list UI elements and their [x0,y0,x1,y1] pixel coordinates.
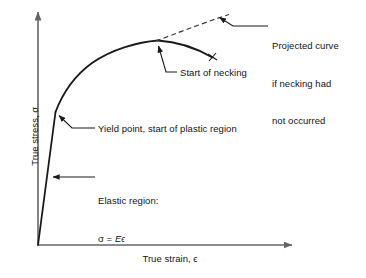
annotation-projected-line-1: Projected curve [272,40,339,53]
post-necking-curve [158,41,213,58]
annotation-projected-line-3: not occurred [272,115,339,128]
leader-necking [159,46,178,72]
annotation-elastic-region: Elastic region: σ = Eϵ [98,170,158,258]
equation-sigma-equals: σ = [98,233,115,244]
annotation-yield-point: Yield point, start of plastic region [98,123,237,136]
leader-projected [220,18,269,27]
fracture-tick-icon [208,53,217,61]
annotation-start-of-necking: Start of necking [180,67,247,80]
equation-strain-symbol: ϵ [121,234,125,244]
leader-yield [59,116,95,129]
plastic-region-curve [56,41,159,113]
axis-label-y: True stress, σ [29,81,42,191]
projected-curve-dashed [156,15,229,42]
annotation-projected-curve: Projected curve if necking had not occur… [272,15,339,140]
annotation-elastic-line-1: Elastic region: [98,195,158,208]
annotation-projected-line-2: if necking had [272,78,339,91]
annotation-elastic-equation: σ = Eϵ [98,233,158,246]
